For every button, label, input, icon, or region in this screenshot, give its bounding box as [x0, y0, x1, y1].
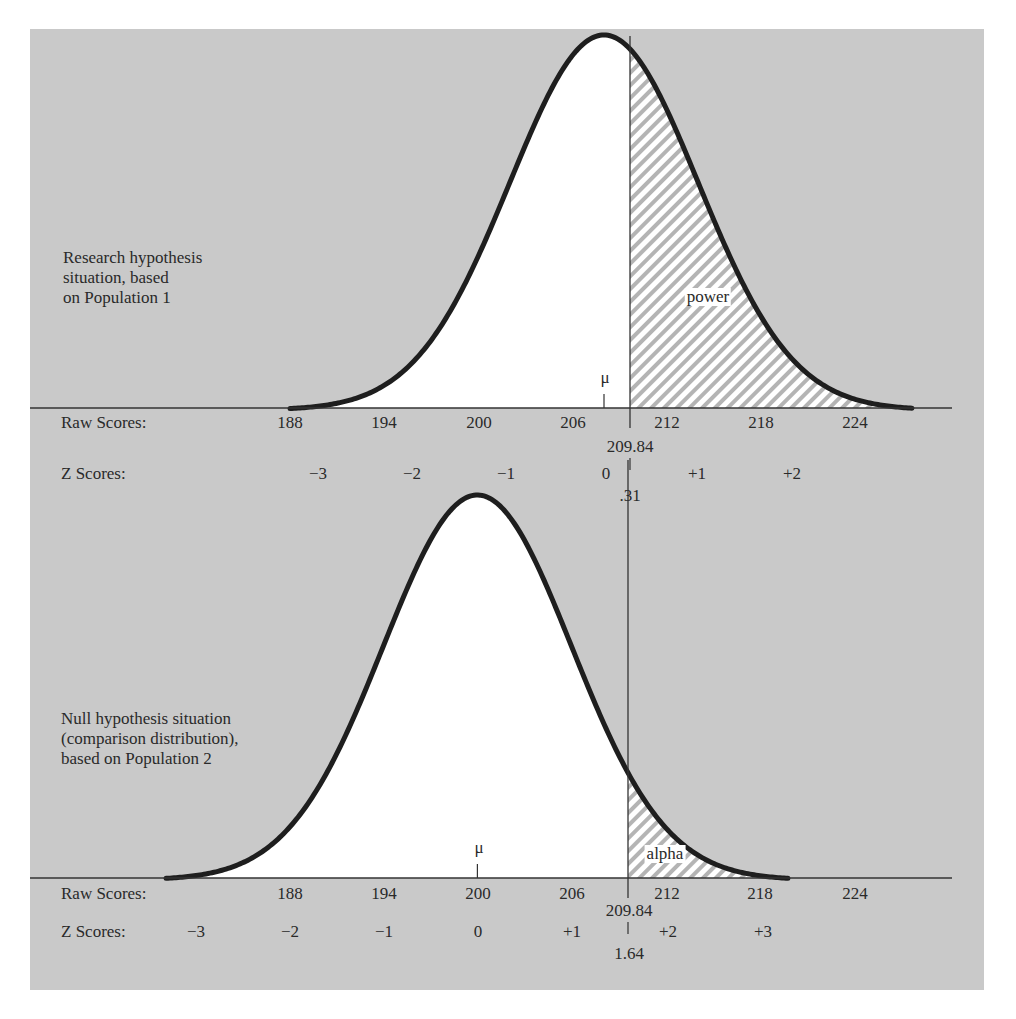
research-cutoff-raw: 209.84 [607, 437, 654, 457]
z-scores-label: Z Scores: [61, 922, 126, 942]
null-distribution [30, 460, 952, 934]
null-description: Null hypothesis situation (comparison di… [61, 709, 239, 769]
z-score-tick: −3 [187, 922, 205, 942]
research-description: Research hypothesis situation, based on … [63, 248, 202, 308]
research-description-line: Research hypothesis [63, 248, 202, 268]
null-description-line: based on Population 2 [61, 749, 239, 769]
null-description-line: Null hypothesis situation [61, 709, 239, 729]
z-score-tick: +1 [688, 464, 706, 484]
raw-score-tick: 206 [560, 413, 586, 433]
raw-score-tick: 194 [371, 413, 397, 433]
z-score-tick: −1 [497, 464, 515, 484]
z-scores-label: Z Scores: [61, 464, 126, 484]
null-cutoff-z: 1.64 [614, 944, 644, 964]
research-description-line: on Population 1 [63, 288, 202, 308]
null-description-line: (comparison distribution), [61, 729, 239, 749]
raw-score-tick: 218 [747, 884, 773, 904]
z-score-tick: +2 [659, 922, 677, 942]
research-cutoff-z: .31 [619, 486, 640, 506]
raw-score-tick: 218 [748, 413, 774, 433]
z-score-tick: +2 [783, 464, 801, 484]
z-score-tick: 0 [474, 922, 483, 942]
alpha-label: alpha [645, 845, 686, 863]
z-score-tick: 0 [602, 464, 611, 484]
shaded-area [630, 49, 912, 408]
z-score-tick: −3 [309, 464, 327, 484]
z-score-tick: +3 [754, 922, 772, 942]
z-score-tick: −2 [281, 922, 299, 942]
power-label: power [685, 288, 731, 306]
null-cutoff-raw: 209.84 [606, 901, 653, 921]
unshaded-area [166, 495, 628, 878]
raw-score-tick: 212 [654, 884, 680, 904]
z-score-tick: −1 [375, 922, 393, 942]
raw-score-tick: 224 [842, 884, 868, 904]
raw-scores-label: Raw Scores: [61, 413, 146, 433]
z-score-tick: −2 [403, 464, 421, 484]
null-mean-label: μ [474, 838, 483, 858]
raw-score-tick: 200 [466, 413, 492, 433]
z-score-tick: +1 [563, 922, 581, 942]
unshaded-area [290, 35, 630, 409]
raw-score-tick: 224 [842, 413, 868, 433]
raw-scores-label: Raw Scores: [61, 884, 146, 904]
research-mean-label: μ [600, 368, 609, 388]
raw-score-tick: 188 [277, 884, 303, 904]
raw-score-tick: 188 [277, 413, 303, 433]
raw-score-tick: 200 [465, 884, 491, 904]
distribution-plot [0, 0, 1016, 1019]
research-description-line: situation, based [63, 268, 202, 288]
raw-score-tick: 206 [559, 884, 585, 904]
raw-score-tick: 194 [371, 884, 397, 904]
raw-score-tick: 212 [654, 413, 680, 433]
